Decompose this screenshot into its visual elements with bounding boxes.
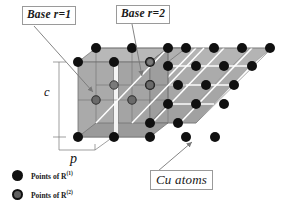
label-base-r2: Base r=2 [116,5,170,24]
arrow-cu-atoms [158,142,192,171]
legend: Points of R(1) Points of R(2) [6,166,136,204]
dimension-label-p: p [70,152,77,166]
ringed-circle-icon [12,189,23,200]
legend-item-r1-label: Points of R(1) [31,170,73,181]
filled-circle-icon [12,170,23,181]
label-base-r1: Base r=1 [22,6,76,25]
legend-item-r2: Points of R(2) [6,185,136,204]
label-cu-atoms: Cu atoms [150,170,213,190]
dimension-label-c: c [44,86,50,99]
legend-item-r1: Points of R(1) [6,166,136,185]
legend-item-r2-label: Points of R(2) [31,189,73,200]
